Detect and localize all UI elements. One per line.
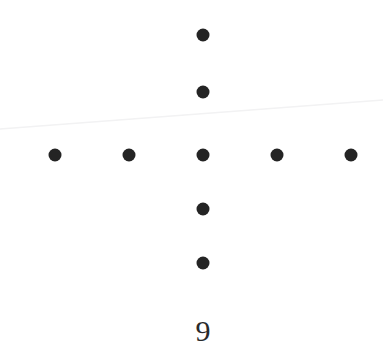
x-axis-tick-label: 9 bbox=[196, 314, 211, 347]
scatter-point bbox=[197, 86, 210, 99]
scatter-point bbox=[197, 257, 210, 270]
plot-canvas: 9 bbox=[0, 0, 383, 361]
scatter-point bbox=[49, 149, 62, 162]
scatter-point bbox=[197, 29, 210, 42]
scatter-plot-figure: 9 bbox=[0, 0, 383, 361]
scatter-point bbox=[197, 203, 210, 216]
scatter-point bbox=[271, 149, 284, 162]
scatter-point bbox=[123, 149, 136, 162]
plot-background bbox=[0, 0, 383, 361]
scatter-point bbox=[197, 149, 210, 162]
scatter-point bbox=[345, 149, 358, 162]
